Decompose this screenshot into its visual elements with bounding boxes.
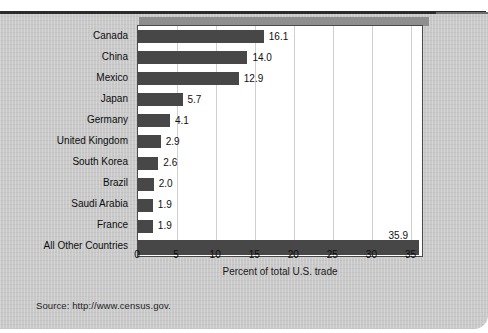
bar: [138, 114, 170, 127]
bar-row: 2.9: [138, 131, 180, 152]
bar: [138, 72, 239, 85]
bar-row: 2.0: [138, 174, 173, 195]
bar-value-label: 35.9: [389, 231, 408, 241]
top-rule-divider-fade: [436, 12, 488, 14]
bar-value-label: 1.9: [158, 200, 172, 210]
x-tick-label: 35: [405, 250, 416, 260]
bar-row: 1.9: [138, 195, 172, 216]
bar-series: 16.114.012.95.74.12.92.62.01.91.935.9: [138, 26, 422, 256]
bar-row: 5.7: [138, 89, 201, 110]
top-rule-divider: [0, 11, 486, 14]
bar-value-label: 2.0: [159, 179, 173, 189]
category-label: Canada: [93, 31, 128, 41]
bar-row: 12.9: [138, 68, 263, 89]
category-label: Brazil: [103, 178, 128, 188]
bar-value-label: 5.7: [188, 95, 202, 105]
bar-row: 4.1: [138, 110, 189, 131]
bar-row: 16.1: [138, 26, 288, 47]
bar-value-label: 1.9: [158, 221, 172, 231]
x-tick-label: 5: [173, 250, 179, 260]
x-tick-label: 30: [366, 250, 377, 260]
category-label: United Kingdom: [57, 136, 128, 146]
scanned-page: CanadaChinaMexicoJapanGermanyUnited King…: [0, 0, 488, 333]
x-axis-tick-labels: 05101520253035: [137, 250, 429, 264]
bar-value-label: 2.6: [163, 158, 177, 168]
category-label: Japan: [101, 94, 128, 104]
bar-row: 2.6: [138, 153, 177, 174]
x-axis-title: Percent of total U.S. trade: [137, 266, 423, 277]
bar: [138, 157, 158, 170]
bar: [138, 135, 161, 148]
category-label: Saudi Arabia: [71, 199, 128, 209]
x-tick-label: 20: [288, 250, 299, 260]
bar: [138, 30, 264, 43]
bar: [138, 51, 247, 64]
bar: [138, 199, 153, 212]
category-axis-labels: CanadaChinaMexicoJapanGermanyUnited King…: [0, 25, 133, 257]
category-label: Mexico: [96, 73, 128, 83]
bar: [138, 220, 153, 233]
bar-chart: 16.114.012.95.74.12.92.62.01.91.935.9: [137, 17, 429, 264]
x-tick-label: 10: [210, 250, 221, 260]
bar-value-label: 2.9: [166, 137, 180, 147]
bar-value-label: 14.0: [252, 53, 271, 63]
x-tick-label: 25: [327, 250, 338, 260]
category-label: France: [97, 220, 128, 230]
bar-row: 14.0: [138, 47, 272, 68]
x-tick-label: 0: [134, 250, 140, 260]
category-label: All Other Countries: [44, 241, 128, 251]
category-label: China: [102, 52, 128, 62]
category-label: Germany: [87, 115, 128, 125]
bar: [138, 178, 154, 191]
plot-area: 16.114.012.95.74.12.92.62.01.91.935.9: [137, 25, 423, 257]
category-label: South Korea: [72, 157, 128, 167]
bar-row: 1.9: [138, 216, 172, 237]
bar: [138, 93, 183, 106]
source-note: Source: http://www.census.gov.: [36, 300, 171, 311]
bar-value-label: 16.1: [269, 32, 288, 42]
bar-value-label: 4.1: [175, 116, 189, 126]
x-tick-label: 15: [249, 250, 260, 260]
bar-value-label: 12.9: [244, 74, 263, 84]
